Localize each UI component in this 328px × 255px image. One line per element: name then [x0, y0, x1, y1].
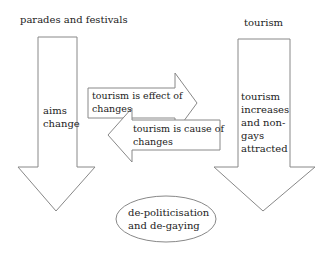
- right-arrow-line-1: tourism: [241, 90, 289, 103]
- left-arrow-line-2: change: [43, 117, 80, 130]
- right-arrow-text: tourism increases and non- gays attracte…: [241, 90, 289, 155]
- left-arrow-line-1: aims: [43, 104, 80, 117]
- effect-arrow-text: tourism is effect of changes: [92, 90, 182, 115]
- outcome-line-1: de-politicisation: [128, 206, 209, 219]
- right-arrow-line-3: and non-: [241, 116, 289, 129]
- right-arrow-line-2: increases: [241, 103, 289, 116]
- effect-line-2: changes: [92, 103, 182, 116]
- cause-line-2: changes: [133, 136, 224, 149]
- right-arrow-line-4: gays: [241, 129, 289, 142]
- left-column-title: parades and festivals: [20, 13, 128, 26]
- right-column-title: tourism: [244, 16, 283, 29]
- left-arrow-text: aims change: [43, 104, 80, 130]
- cause-line-1: tourism is cause of: [133, 123, 224, 136]
- outcome-text: de-politicisation and de-gaying: [128, 206, 209, 232]
- right-arrow-line-5: attracted: [241, 142, 289, 155]
- cause-arrow-text: tourism is cause of changes: [133, 123, 224, 148]
- effect-line-1: tourism is effect of: [92, 90, 182, 103]
- outcome-line-2: and de-gaying: [128, 219, 209, 232]
